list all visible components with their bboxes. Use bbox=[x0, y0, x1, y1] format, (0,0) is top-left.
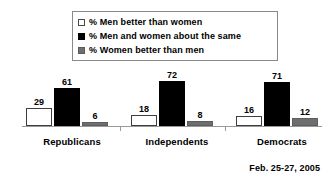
bar-value-republicans-men-better: 29 bbox=[26, 97, 52, 107]
legend-item-about-the-same: % Men and women about the same bbox=[78, 29, 272, 43]
chart-legend: % Men better than women % Men and women … bbox=[72, 11, 278, 61]
bar-value-democrats-about-the-same: 71 bbox=[264, 71, 290, 81]
bar-value-republicans-women-better: 6 bbox=[82, 111, 108, 121]
group-separator-tick bbox=[120, 127, 121, 131]
plot-area: 29 61 6 18 72 bbox=[0, 66, 335, 128]
legend-label-about-the-same: % Men and women about the same bbox=[89, 31, 241, 41]
bar-value-republicans-about-the-same: 61 bbox=[54, 77, 80, 87]
bar-republicans-about-the-same: 61 bbox=[54, 88, 80, 126]
bar-independents-men-better: 18 bbox=[131, 115, 157, 126]
bar-independents-about-the-same: 72 bbox=[159, 81, 185, 126]
legend-label-men-better: % Men better than women bbox=[89, 17, 202, 27]
category-axis-labels: Republicans Independents Democrats bbox=[0, 136, 335, 150]
bar-value-democrats-men-better: 16 bbox=[236, 105, 262, 115]
legend-swatch-gray-icon bbox=[78, 47, 85, 54]
category-label-republicans: Republicans bbox=[22, 136, 122, 148]
legend-label-women-better: % Women better than men bbox=[89, 45, 204, 55]
chart-footnote-date: Feb. 25-27, 2005 bbox=[249, 163, 320, 173]
bar-republicans-men-better: 29 bbox=[26, 108, 52, 126]
bar-chart: % Men better than women % Men and women … bbox=[0, 0, 335, 183]
bar-group-republicans: 29 61 6 bbox=[22, 66, 122, 126]
bar-democrats-men-better: 16 bbox=[236, 116, 262, 126]
legend-swatch-black-icon bbox=[78, 33, 85, 40]
bar-democrats-about-the-same: 71 bbox=[264, 82, 290, 126]
bar-value-independents-men-better: 18 bbox=[131, 104, 157, 114]
bar-rect-black bbox=[264, 82, 290, 126]
category-label-democrats: Democrats bbox=[232, 136, 332, 148]
axis-baseline bbox=[22, 126, 322, 127]
bar-group-independents: 18 72 8 bbox=[127, 66, 227, 126]
bar-value-independents-women-better: 8 bbox=[187, 110, 213, 120]
bar-value-democrats-women-better: 12 bbox=[292, 107, 318, 117]
bar-rect-black bbox=[159, 81, 185, 126]
bar-rect-white bbox=[26, 108, 52, 126]
group-separator-tick bbox=[225, 127, 226, 131]
legend-item-women-better: % Women better than men bbox=[78, 43, 272, 57]
bar-democrats-women-better: 12 bbox=[292, 118, 318, 126]
bar-rect-white bbox=[131, 115, 157, 126]
bar-rect-white bbox=[236, 116, 262, 126]
bar-group-democrats: 16 71 12 bbox=[232, 66, 332, 126]
category-label-independents: Independents bbox=[127, 136, 227, 148]
bar-rect-gray bbox=[292, 118, 318, 126]
legend-swatch-white-icon bbox=[78, 19, 85, 26]
legend-item-men-better: % Men better than women bbox=[78, 15, 272, 29]
bar-rect-black bbox=[54, 88, 80, 126]
bar-value-independents-about-the-same: 72 bbox=[159, 70, 185, 80]
